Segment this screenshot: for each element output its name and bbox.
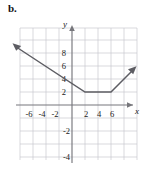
x-tick-label: -2 xyxy=(51,109,58,119)
x-axis-tick-labels: -6 -4 -2 2 4 6 xyxy=(25,109,114,119)
function-curve xyxy=(13,43,137,92)
axes xyxy=(16,25,133,163)
y-tick-label: -4 xyxy=(63,152,71,162)
y-tick-label: -2 xyxy=(63,126,70,136)
x-tick-label: 6 xyxy=(110,109,114,119)
x-axis-arrowhead xyxy=(127,102,133,108)
grid-lines xyxy=(20,28,137,160)
y-tick-label: 2 xyxy=(62,87,66,97)
x-tick-label: 2 xyxy=(84,109,88,119)
y-axis-name: y xyxy=(62,19,67,29)
x-tick-label: -4 xyxy=(38,109,46,119)
x-tick-label: -6 xyxy=(25,109,32,119)
figure-panel: b. xyxy=(0,0,153,175)
x-axis-name: x xyxy=(134,106,139,116)
x-tick-label: 4 xyxy=(97,109,102,119)
y-tick-label: 6 xyxy=(62,61,66,71)
y-tick-label: 8 xyxy=(62,48,66,58)
coordinate-plane-graph: -6 -4 -2 2 4 6 8 6 4 2 -2 -4 x y xyxy=(0,0,153,175)
